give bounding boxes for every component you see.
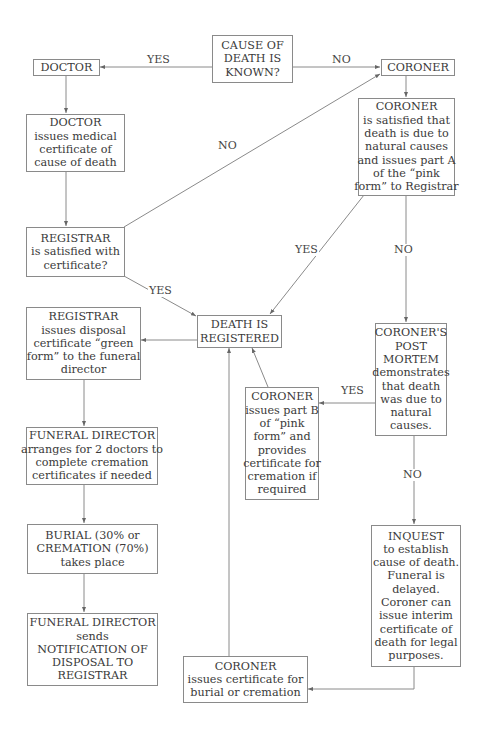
- node-text: CORONER: [251, 390, 313, 403]
- node-text: certificate of: [380, 623, 452, 636]
- edge-label-no: NO: [331, 54, 352, 66]
- node-text: issue interim: [379, 609, 453, 622]
- node-registrar-issues: REGISTRAR issues disposal certificate “g…: [26, 307, 141, 380]
- node-text: REGISTRAR: [41, 232, 111, 245]
- node-text: FUNERAL DIRECTOR: [29, 429, 155, 442]
- node-text: causes.: [390, 419, 432, 432]
- node-text: certificate of: [39, 143, 111, 156]
- node-text: was due to: [380, 393, 441, 406]
- node-text: issues part B: [245, 404, 319, 417]
- node-text: purposes.: [388, 649, 443, 662]
- node-text: Coroner can: [381, 596, 451, 609]
- node-coroner-part-b: CORONER issues part B of “pink form” and…: [245, 387, 319, 500]
- node-doctor: DOCTOR: [33, 59, 100, 76]
- node-text: form” to Registrar: [354, 180, 458, 193]
- node-text: director: [61, 363, 107, 376]
- edge-label-yes: YES: [294, 244, 319, 256]
- node-text: is satisfied that: [363, 114, 450, 127]
- edge-label-no: NO: [217, 140, 238, 152]
- node-text: takes place: [60, 556, 124, 569]
- node-death-registered: DEATH IS REGISTERED: [197, 315, 282, 348]
- node-text: issues medical: [34, 130, 117, 143]
- node-text: DISPOSAL TO: [52, 656, 133, 669]
- node-text: certificate?: [44, 259, 108, 272]
- node-text: CAUSE OF: [221, 39, 283, 52]
- node-text: REGISTERED: [200, 332, 279, 345]
- node-doctor-issues: DOCTOR issues medical certificate of cau…: [26, 114, 125, 172]
- node-text: CORONER: [215, 660, 277, 673]
- node-text: NOTIFICATION OF: [37, 643, 147, 656]
- node-text: DOCTOR: [41, 61, 93, 74]
- node-text: death is due to: [364, 127, 448, 140]
- node-text: burial or cremation: [190, 686, 300, 699]
- node-text: issues certificate for: [188, 673, 304, 686]
- node-text: complete cremation: [35, 456, 148, 469]
- node-inquest: INQUEST to establish cause of death. Fun…: [371, 525, 461, 667]
- node-text: to establish: [383, 543, 449, 556]
- node-text: CORONER: [387, 61, 449, 74]
- node-text: cause of death: [34, 156, 117, 169]
- node-text: CORONER'S: [375, 326, 447, 339]
- edge-label-yes: YES: [146, 54, 171, 66]
- node-text: DOCTOR: [50, 116, 102, 129]
- node-text: of the “pink: [373, 167, 440, 180]
- node-text: KNOWN?: [225, 66, 280, 79]
- node-text: POST: [395, 340, 427, 353]
- node-text: certificate for: [243, 457, 321, 470]
- node-text: REGISTRAR: [49, 310, 119, 323]
- node-coroner-satisfied: CORONER is satisfied that death is due t…: [358, 98, 455, 196]
- node-text: is satisfied with: [31, 245, 120, 258]
- node-text: issues disposal: [41, 324, 126, 337]
- node-burial: BURIAL (30% or CREMATION (70%) takes pla…: [27, 524, 158, 574]
- node-text: natural causes: [365, 140, 448, 153]
- edge-label-yes: YES: [148, 285, 173, 297]
- node-text: Funeral is: [387, 569, 444, 582]
- node-text: CORONER: [376, 100, 438, 113]
- node-coroner: CORONER: [381, 59, 455, 76]
- node-registrar-satisfied: REGISTRAR is satisfied with certificate?: [26, 227, 125, 277]
- node-text: that death: [382, 380, 441, 393]
- node-text: form” and: [253, 430, 310, 443]
- node-funeral-sends: FUNERAL DIRECTOR sends NOTIFICATION OF D…: [27, 613, 158, 686]
- edge-label-no: NO: [393, 244, 414, 256]
- node-text: FUNERAL DIRECTOR: [29, 616, 155, 629]
- node-text: and issues part A: [357, 154, 455, 167]
- node-text: BURIAL (30% or: [45, 529, 139, 542]
- node-text: required: [257, 483, 306, 496]
- edge-label-yes: YES: [340, 385, 365, 397]
- node-text: MORTEM: [383, 353, 439, 366]
- node-text: arranges for 2 doctors to: [21, 443, 163, 456]
- node-text: demonstrates: [372, 366, 449, 379]
- node-text: provides: [258, 444, 307, 457]
- node-cause-known: CAUSE OF DEATH IS KNOWN?: [212, 35, 293, 83]
- node-text: DEATH IS: [211, 318, 268, 331]
- node-text: form” to the funeral: [27, 350, 141, 363]
- node-text: sends: [76, 630, 108, 643]
- node-post-mortem: CORONER'S POST MORTEM demonstrates that …: [375, 323, 447, 436]
- node-text: natural: [390, 406, 431, 419]
- node-text: death for legal: [374, 636, 457, 649]
- node-text: delayed.: [392, 583, 440, 596]
- node-text: cause of death.: [373, 556, 459, 569]
- node-coroner-burial-cert: CORONER issues certificate for burial or…: [183, 656, 308, 703]
- node-text: REGISTRAR: [58, 669, 128, 682]
- node-text: DEATH IS: [224, 52, 281, 65]
- node-text: INQUEST: [388, 530, 444, 543]
- node-funeral-arranges: FUNERAL DIRECTOR arranges for 2 doctors …: [26, 427, 158, 485]
- node-text: certificate “green: [33, 337, 133, 350]
- node-text: of “pink: [260, 417, 305, 430]
- node-text: certificates if needed: [32, 469, 152, 482]
- edge-label-no: NO: [402, 469, 423, 481]
- node-text: CREMATION (70%): [36, 542, 148, 555]
- node-text: cremation if: [248, 470, 317, 483]
